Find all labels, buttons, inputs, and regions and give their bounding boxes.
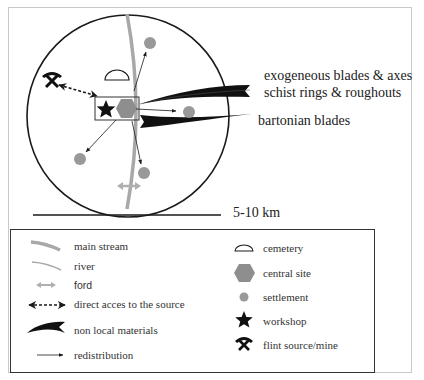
legend-item-workshop: workshop — [263, 315, 306, 327]
flint-mine-icon — [235, 337, 253, 350]
legend-label: cemetery — [263, 242, 303, 254]
label-bartonian-blades: bartonian blades — [258, 113, 350, 129]
river-icon — [32, 262, 61, 270]
main-stream-icon — [31, 242, 60, 250]
legend-item-ford: ford — [74, 279, 92, 291]
legend-item-non-local: non local materials — [74, 324, 158, 336]
legend-item-flint-source: flint source/mine — [263, 339, 338, 351]
cemetery-icon — [235, 245, 253, 251]
settlement-southwest — [74, 153, 86, 165]
legend-item-cemetery: cemetery — [263, 242, 303, 254]
legend-item-river: river — [74, 260, 95, 272]
ford-icon — [36, 282, 56, 288]
legend-label: direct acces to the source — [74, 298, 185, 310]
legend-label: non local materials — [74, 324, 158, 336]
legend-label: river — [74, 260, 95, 272]
settlement-north — [144, 37, 156, 49]
legend: main stream river ford direct acces to t… — [10, 229, 375, 373]
legend-label: redistribution — [74, 349, 133, 361]
legend-item-main-stream: main stream — [74, 240, 128, 252]
legend-right-icons — [225, 230, 265, 370]
cemetery-marker — [105, 70, 129, 80]
workshop-star — [97, 100, 116, 118]
workshop-star-icon — [235, 311, 253, 328]
settlement-south — [138, 167, 150, 179]
settlement-icon — [240, 293, 249, 302]
non-local-flow-lower — [140, 114, 252, 128]
legend-item-settlement: settlement — [263, 291, 308, 303]
label-schist-rings: schist rings & roughouts — [264, 85, 401, 101]
legend-label: flint source/mine — [263, 339, 338, 351]
scale-label: 5-10 km — [233, 205, 280, 221]
direct-access-arrow — [59, 85, 97, 96]
label-exogeneous-blades: exogeneous blades & axes — [264, 68, 412, 84]
legend-item-central-site: central site — [263, 267, 311, 279]
legend-label: ford — [74, 279, 92, 291]
non-local-materials-icon — [27, 322, 65, 333]
central-site-icon — [234, 264, 255, 282]
central-site-hexagon — [116, 99, 137, 118]
flint-mine-marker — [42, 72, 62, 87]
redistribution-arrow-east — [136, 109, 176, 111]
settlement-east — [183, 106, 195, 118]
legend-label: central site — [263, 267, 311, 279]
legend-item-redistribution: redistribution — [74, 349, 133, 361]
legend-label: workshop — [263, 315, 306, 327]
legend-label: main stream — [74, 240, 128, 252]
redistribution-arrow-southwest — [86, 120, 116, 152]
legend-item-direct-access: direct acces to the source — [74, 298, 185, 310]
legend-label: settlement — [263, 291, 308, 303]
